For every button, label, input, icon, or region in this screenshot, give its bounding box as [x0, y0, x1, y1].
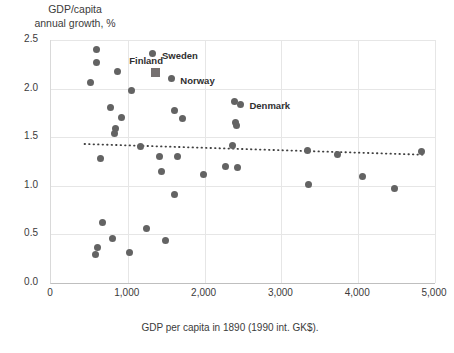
data-point	[200, 171, 207, 178]
data-point	[114, 68, 121, 75]
data-point	[171, 191, 178, 198]
data-point	[111, 130, 118, 137]
data-point-label-norway: Norway	[180, 75, 214, 86]
data-point-finland	[151, 68, 160, 77]
x-axis-tick-label: 2,000	[191, 287, 216, 298]
gridline-horizontal	[51, 186, 435, 187]
data-point-label-sweden: Sweden	[162, 50, 198, 61]
data-point-label-denmark: Denmark	[249, 100, 290, 111]
data-point	[107, 104, 114, 111]
data-point-denmark	[237, 101, 244, 108]
gridline-horizontal	[51, 89, 435, 90]
gridline-vertical	[128, 40, 129, 283]
data-point	[158, 168, 165, 175]
data-point-label-finland: Finland	[129, 55, 163, 66]
data-point	[93, 59, 100, 66]
gridline-vertical	[435, 40, 436, 283]
data-point	[179, 115, 186, 122]
gridline-vertical	[281, 40, 282, 283]
x-axis-tick-label: 5,000	[421, 287, 446, 298]
data-point	[334, 151, 341, 158]
gridline-vertical	[358, 40, 359, 283]
data-point	[143, 225, 150, 232]
x-axis-tick-label: 3,000	[268, 287, 293, 298]
x-axis-title: GDP per capita in 1890 (1990 int. GK$).	[40, 322, 420, 333]
plot-area	[50, 40, 435, 284]
data-point	[126, 249, 133, 256]
gridline-horizontal	[51, 137, 435, 138]
scatter-chart: GDP/capita annual growth, % GDP per capi…	[0, 0, 454, 353]
data-point	[94, 244, 101, 251]
data-point	[156, 153, 163, 160]
data-point	[234, 164, 241, 171]
x-axis-tick-label: 1,000	[114, 287, 139, 298]
x-axis-tick-label: 0	[47, 287, 53, 298]
data-point	[222, 163, 229, 170]
gridline-horizontal	[51, 40, 435, 41]
data-point	[229, 142, 236, 149]
gridline-horizontal	[51, 234, 435, 235]
y-axis-title: GDP/capita annual growth, %	[0, 2, 150, 30]
data-point	[128, 87, 135, 94]
data-point	[359, 173, 366, 180]
x-axis-tick-label: 4,000	[345, 287, 370, 298]
